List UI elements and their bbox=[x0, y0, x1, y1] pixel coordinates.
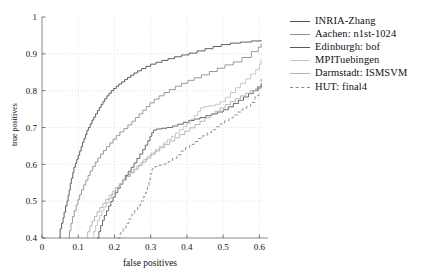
chart-legend: INRIA-ZhangAachen: n1st-1024Edinburgh: b… bbox=[290, 14, 424, 93]
roc-chart-figure: 00.10.20.30.40.50.60.40.50.60.70.80.91 f… bbox=[0, 0, 424, 279]
legend-swatch-icon-0 bbox=[290, 16, 310, 26]
svg-text:0.2: 0.2 bbox=[109, 242, 120, 252]
svg-text:0.5: 0.5 bbox=[218, 242, 230, 252]
gridlines bbox=[42, 17, 263, 238]
svg-text:0.5: 0.5 bbox=[26, 196, 38, 206]
svg-text:0.4: 0.4 bbox=[26, 233, 38, 243]
svg-text:0: 0 bbox=[40, 242, 45, 252]
svg-text:0.6: 0.6 bbox=[26, 160, 38, 170]
legend-label-3: MPITuebingen bbox=[315, 54, 379, 66]
legend-swatch-icon-1 bbox=[290, 29, 310, 39]
svg-text:1: 1 bbox=[33, 12, 38, 22]
data-curves bbox=[59, 40, 261, 238]
svg-text:0.3: 0.3 bbox=[145, 242, 157, 252]
legend-item-3[interactable]: MPITuebingen bbox=[290, 54, 424, 67]
legend-item-0[interactable]: INRIA-Zhang bbox=[290, 14, 424, 27]
svg-text:0.8: 0.8 bbox=[26, 86, 38, 96]
legend-swatch-icon-4 bbox=[290, 68, 310, 78]
legend-label-0: INRIA-Zhang bbox=[315, 15, 376, 27]
svg-text:0.6: 0.6 bbox=[254, 242, 266, 252]
legend-label-1: Aachen: n1st-1024 bbox=[315, 28, 396, 40]
curve-series-0 bbox=[59, 40, 261, 238]
legend-label-4: Darmstadt: ISMSVM bbox=[315, 67, 407, 79]
legend-item-4[interactable]: Darmstadt: ISMSVM bbox=[290, 67, 424, 80]
legend-swatch-icon-5 bbox=[290, 82, 310, 92]
axis-tick-labels: 00.10.20.30.40.50.60.40.50.60.70.80.91 bbox=[26, 12, 266, 252]
curve-series-1 bbox=[68, 44, 261, 238]
svg-text:0.4: 0.4 bbox=[181, 242, 193, 252]
legend-item-2[interactable]: Edinburgh: bof bbox=[290, 40, 424, 53]
legend-item-1[interactable]: Aachen: n1st-1024 bbox=[290, 27, 424, 40]
curve-series-2 bbox=[97, 83, 261, 238]
legend-item-5[interactable]: HUT: final4 bbox=[290, 80, 424, 93]
legend-swatch-icon-2 bbox=[290, 42, 310, 52]
svg-text:0.9: 0.9 bbox=[26, 49, 38, 59]
legend-label-5: HUT: final4 bbox=[315, 81, 367, 93]
curve-series-4 bbox=[85, 86, 261, 238]
legend-label-2: Edinburgh: bof bbox=[315, 41, 380, 53]
x-axis-label: false positives bbox=[0, 258, 300, 268]
y-axis-label: true positives bbox=[10, 85, 19, 165]
svg-text:0.7: 0.7 bbox=[26, 123, 38, 133]
svg-text:0.1: 0.1 bbox=[73, 242, 84, 252]
legend-swatch-icon-3 bbox=[290, 55, 310, 65]
